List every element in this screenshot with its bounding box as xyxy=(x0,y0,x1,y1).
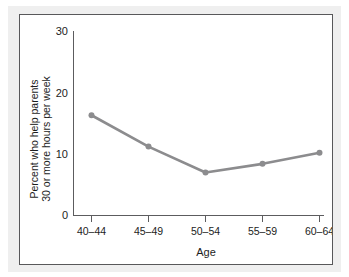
x-tick-label-0: 40–44 xyxy=(77,225,106,237)
data-markers xyxy=(89,112,323,175)
data-point-3 xyxy=(260,161,266,167)
data-point-1 xyxy=(146,144,152,150)
data-point-2 xyxy=(203,169,209,175)
x-axis-ticks xyxy=(92,216,320,222)
x-axis-tick-labels: 40–44 45–49 50–54 55–59 60–64 xyxy=(77,225,332,237)
data-line-series-0 xyxy=(92,115,320,172)
x-tick-label-2: 50–54 xyxy=(191,225,220,237)
y-axis-title: Percent who help parents 30 or more hour… xyxy=(28,76,52,202)
y-axis-title-line2: 30 or more hours per week xyxy=(40,76,52,202)
y-axis-title-line1: Percent who help parents xyxy=(28,79,40,198)
y-tick-label-20: 20 xyxy=(56,87,68,99)
y-tick-label-10: 10 xyxy=(56,148,68,160)
plot-area: Percent who help parents 30 or more hour… xyxy=(20,15,332,264)
y-tick-label-30: 30 xyxy=(56,25,68,37)
x-tick-label-3: 55–59 xyxy=(248,225,277,237)
line-chart: Percent who help parents 30 or more hour… xyxy=(20,15,332,264)
y-axis-tick-labels: 30 20 10 0 xyxy=(56,25,68,221)
y-tick-label-0: 0 xyxy=(62,209,68,221)
x-tick-label-1: 45–49 xyxy=(134,225,163,237)
x-axis-title: Age xyxy=(196,246,216,258)
figure-frame: Percent who help parents 30 or more hour… xyxy=(19,14,333,265)
figure-page: Percent who help parents 30 or more hour… xyxy=(0,0,349,277)
data-point-4 xyxy=(317,150,323,156)
x-tick-label-4: 60–64 xyxy=(305,225,332,237)
data-point-0 xyxy=(89,112,95,118)
